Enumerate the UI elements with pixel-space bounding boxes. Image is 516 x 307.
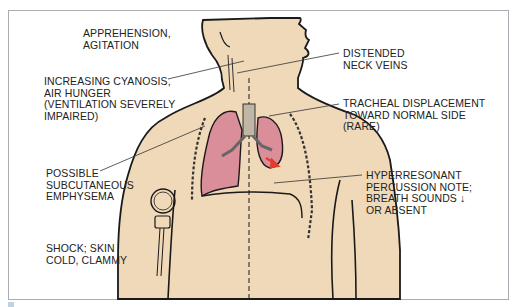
- label-shock: SHOCK; SKIN COLD, CLAMMY: [46, 243, 127, 266]
- label-line: BREATH SOUNDS ↓: [366, 193, 472, 205]
- label-line: POSSIBLE: [46, 168, 134, 180]
- label-line: SHOCK; SKIN: [46, 243, 127, 255]
- label-apprehension: APPREHENSION, AGITATION: [83, 28, 171, 51]
- label-emphysema: POSSIBLE SUBCUTANEOUS EMPHYSEMA: [46, 168, 134, 203]
- label-line: NECK VEINS: [343, 60, 408, 72]
- label-line: EMPHYSEMA: [46, 191, 134, 203]
- label-line: DISTENDED: [343, 48, 408, 60]
- label-line: APPREHENSION,: [83, 28, 171, 40]
- label-line: IMPAIRED): [44, 111, 175, 123]
- trachea: [243, 104, 255, 136]
- label-line: AGITATION: [83, 40, 171, 52]
- label-line: TRACHEAL DISPLACEMENT: [343, 98, 485, 110]
- label-cyanosis: INCREASING CYANOSIS, AIR HUNGER (VENTILA…: [44, 76, 175, 122]
- label-line: HYPERRESONANT: [366, 170, 472, 182]
- label-line: COLD, CLAMMY: [46, 255, 127, 267]
- caption-marker: [8, 302, 14, 307]
- label-line: (RARE): [343, 121, 485, 133]
- label-line: OR ABSENT: [366, 205, 472, 217]
- label-tracheal: TRACHEAL DISPLACEMENT TOWARD NORMAL SIDE…: [343, 98, 485, 133]
- label-line: INCREASING CYANOSIS,: [44, 76, 175, 88]
- label-line: (VENTILATION SEVERELY: [44, 99, 175, 111]
- label-percussion: HYPERRESONANT PERCUSSION NOTE; BREATH SO…: [366, 170, 472, 216]
- label-neck-veins: DISTENDED NECK VEINS: [343, 48, 408, 71]
